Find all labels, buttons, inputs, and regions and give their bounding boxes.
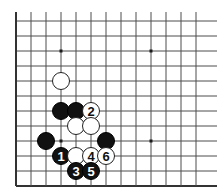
move-number-label: 1 [57, 149, 64, 164]
black-stone-move-1[interactable]: 1 [53, 148, 70, 165]
white-stone-disc [68, 118, 85, 135]
black-stone-c[interactable] [68, 103, 85, 120]
white-stone-e[interactable] [83, 118, 100, 135]
white-stone-disc [83, 118, 100, 135]
white-stone-d[interactable] [68, 118, 85, 135]
white-stone-a[interactable] [53, 73, 70, 90]
move-number-label: 4 [87, 149, 95, 164]
black-stone-g[interactable] [98, 133, 115, 150]
move-number-label: 5 [87, 164, 94, 179]
black-stone-disc [38, 133, 55, 150]
move-number-label: 6 [102, 149, 109, 164]
move-number-label: 3 [72, 164, 79, 179]
star-point-lower-right [150, 140, 153, 143]
black-stone-b[interactable] [53, 103, 70, 120]
white-stone-disc [68, 148, 85, 165]
star-point-upper-right [150, 50, 153, 53]
move-number-label: 2 [87, 104, 94, 119]
black-stone-disc [68, 103, 85, 120]
black-stone-disc [98, 133, 115, 150]
white-stone-move-6[interactable]: 6 [98, 148, 115, 165]
board-background [0, 0, 217, 196]
black-stone-f[interactable] [38, 133, 55, 150]
black-stone-move-5[interactable]: 5 [83, 163, 100, 180]
white-stone-disc [53, 73, 70, 90]
black-stone-disc [53, 103, 70, 120]
star-point-upper-left [60, 50, 63, 53]
white-stone-move-4[interactable]: 4 [83, 148, 100, 165]
go-board-diagram: 214635 [0, 0, 217, 196]
goban-canvas[interactable]: 214635 [0, 0, 217, 196]
white-stone-h[interactable] [68, 148, 85, 165]
white-stone-move-2[interactable]: 2 [83, 103, 100, 120]
black-stone-move-3[interactable]: 3 [68, 163, 85, 180]
star-point-lower-left [60, 140, 63, 143]
